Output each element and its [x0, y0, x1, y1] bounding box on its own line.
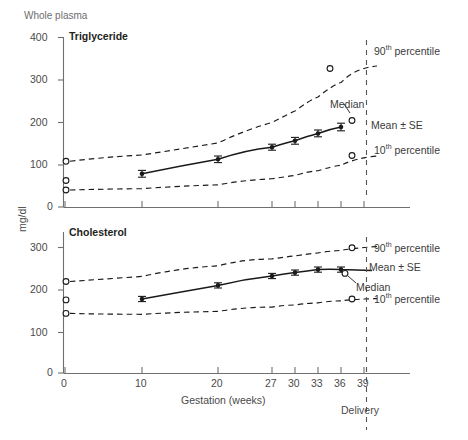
cholesterol-p10-delivery — [349, 296, 355, 302]
cholesterol-mean-markers — [140, 267, 344, 301]
cholesterol-mean-line — [142, 269, 372, 299]
xtick-27: 27 — [265, 377, 277, 389]
triglyceride-p90-label-num: 90 — [374, 45, 386, 57]
figure-header: Whole plasma — [24, 10, 87, 21]
xtick-36: 36 — [334, 377, 346, 389]
cholesterol-ytick-300: 300 — [30, 241, 48, 253]
triglyceride-ytick-100: 100 — [30, 158, 48, 170]
cholesterol-p10-label-num: 10 — [374, 293, 386, 305]
y-axis-title: mg/dl — [16, 206, 28, 232]
triglyceride-p10-curve — [70, 156, 377, 190]
cholesterol-p90-week0 — [63, 279, 69, 285]
triglyceride-ytick-400: 400 — [30, 31, 48, 43]
triglyceride-median-delivery — [349, 118, 355, 124]
cholesterol-median-leader — [348, 276, 356, 283]
triglyceride-median-label: Median — [330, 98, 364, 110]
triglyceride-open-circles — [63, 66, 355, 193]
triglyceride-panel — [58, 37, 410, 208]
chart-vector-artwork — [0, 0, 468, 440]
triglyceride-p10-week0 — [63, 187, 69, 193]
triglyceride-median-week0 — [63, 178, 69, 184]
cholesterol-p10-week0 — [63, 311, 69, 317]
cholesterol-p90-label-rest: percentile — [392, 242, 440, 254]
triglyceride-ytick-0: 0 — [47, 200, 53, 212]
cholesterol-p10-curve — [70, 299, 377, 315]
triglyceride-ytick-200: 200 — [30, 116, 48, 128]
cholesterol-median-week0 — [63, 297, 69, 303]
x-axis-title: Gestation (weeks) — [181, 394, 266, 406]
triglyceride-p10-label-num: 10 — [374, 144, 386, 156]
cholesterol-panel-title: Cholesterol — [69, 226, 127, 238]
cholesterol-ytick-0: 0 — [47, 366, 53, 378]
triglyceride-p90-label: 90th percentile — [374, 44, 440, 57]
triglyceride-p10-label-rest: percentile — [392, 144, 440, 156]
triglyceride-mean-line — [142, 127, 341, 174]
cholesterol-mean-label: Mean ± SE — [369, 261, 421, 273]
cholesterol-p90-delivery — [349, 245, 355, 251]
triglyceride-p90-curve — [70, 66, 377, 161]
cholesterol-p90-label-num: 90 — [374, 242, 386, 254]
xtick-10: 10 — [135, 377, 147, 389]
cholesterol-ytick-100: 100 — [30, 326, 48, 338]
xtick-0: 0 — [61, 377, 67, 389]
triglyceride-p90-week0 — [63, 158, 69, 164]
xtick-33: 33 — [311, 377, 323, 389]
cholesterol-ytick-200: 200 — [30, 283, 48, 295]
cholesterol-median-delivery — [342, 271, 348, 277]
triglyceride-p90-delivery — [327, 66, 333, 72]
triglyceride-p10-delivery — [349, 153, 355, 159]
figure-container: Whole plasma Triglyceride 400 300 200 10… — [0, 0, 468, 440]
cholesterol-p90-curve — [70, 247, 377, 282]
xtick-39: 39 — [357, 377, 369, 389]
cholesterol-open-circles — [63, 245, 355, 316]
triglyceride-mean-label: Mean ± SE — [371, 119, 423, 131]
cholesterol-errorbars — [138, 267, 345, 302]
cholesterol-p10-label: 10th percentile — [374, 292, 440, 305]
triglyceride-panel-title: Triglyceride — [69, 30, 128, 42]
cholesterol-p10-label-rest: percentile — [392, 293, 440, 305]
xtick-20: 20 — [211, 377, 223, 389]
triglyceride-p10-label: 10th percentile — [374, 143, 440, 156]
triglyceride-p90-label-rest: percentile — [392, 45, 440, 57]
triglyceride-ytick-300: 300 — [30, 73, 48, 85]
delivery-label: Delivery — [341, 404, 379, 416]
xtick-30: 30 — [288, 377, 300, 389]
cholesterol-p90-label: 90th percentile — [374, 241, 440, 254]
